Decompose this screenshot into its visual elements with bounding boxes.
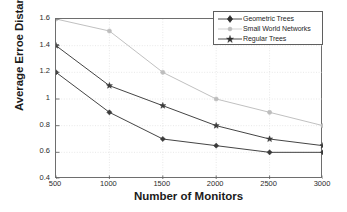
- x-tick-label: 500: [35, 179, 75, 188]
- data-point-diamond: [267, 150, 272, 155]
- diamond-marker-icon: [217, 14, 243, 24]
- series-geometric-trees: [56, 70, 323, 155]
- data-point-star: [213, 122, 219, 128]
- series-regular-trees: [56, 42, 323, 148]
- data-point-dot: [321, 124, 323, 128]
- data-point-dot: [107, 29, 111, 33]
- y-tick-label: 1.2: [22, 67, 50, 75]
- chart-figure: Average Erroe Distance (Hops) 0.40.60.81…: [0, 0, 347, 212]
- chart-legend[interactable]: Geometric Trees Small World Networks Reg…: [213, 11, 323, 45]
- legend-label: Regular Trees: [243, 34, 286, 44]
- data-point-dot: [214, 97, 218, 101]
- y-tick-label: 1.4: [22, 41, 50, 49]
- legend-label: Small World Networks: [243, 24, 311, 34]
- x-tick-label: 3000: [302, 179, 342, 188]
- dot-marker-icon: [217, 24, 243, 34]
- data-point-dot: [161, 70, 165, 74]
- star-marker-icon: [217, 34, 243, 44]
- legend-item-geometric-trees[interactable]: Geometric Trees: [217, 14, 319, 24]
- y-tick-label: 1.6: [22, 14, 50, 22]
- y-tick-label: 0.8: [22, 121, 50, 129]
- data-point-dot: [268, 110, 272, 114]
- x-tick-label: 1500: [142, 179, 182, 188]
- data-point-diamond: [160, 136, 165, 141]
- x-tick-label: 1000: [88, 179, 128, 188]
- data-point-star: [267, 136, 273, 142]
- legend-item-regular-trees[interactable]: Regular Trees: [217, 34, 319, 44]
- legend-item-small-world-networks[interactable]: Small World Networks: [217, 24, 319, 34]
- y-tick-label: 1: [22, 94, 50, 102]
- x-axis-label: Number of Monitors: [55, 190, 322, 202]
- y-tick-label: 0.6: [22, 147, 50, 155]
- series-line: [56, 46, 323, 146]
- legend-label: Geometric Trees: [243, 14, 294, 24]
- x-tick-label: 2000: [195, 179, 235, 188]
- x-tick-label: 2500: [249, 179, 289, 188]
- data-point-diamond: [214, 143, 219, 148]
- data-point-star: [160, 102, 166, 108]
- data-point-diamond: [320, 150, 323, 155]
